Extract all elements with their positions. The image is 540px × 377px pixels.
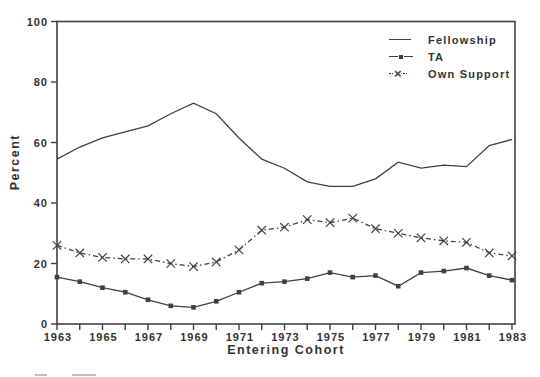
x-tick-label: 1973: [271, 331, 299, 343]
y-tick-label: 60: [34, 137, 48, 149]
x-tick-label: 1969: [180, 331, 208, 343]
ta-square-marker: [237, 290, 242, 295]
ta-line-sample-icon: [389, 55, 419, 59]
y-axis-label: Percent: [8, 134, 22, 190]
x-tick-label: 1979: [408, 331, 436, 343]
ta-square-marker: [510, 278, 515, 283]
x-tick-label: 1963: [44, 331, 72, 343]
x-axis-label: Entering Cohort: [57, 343, 515, 357]
ta-square-marker: [55, 275, 60, 280]
series-line-fellowship: [57, 103, 512, 186]
ta-square-marker: [464, 266, 469, 271]
own-support-line-sample-icon: ×: [389, 69, 419, 79]
ta-square-marker: [373, 273, 378, 278]
legend: Fellowship TA × Own Support: [389, 33, 510, 80]
ta-square-marker: [77, 279, 82, 284]
legend-label-ta: TA: [428, 51, 444, 63]
ta-square-marker: [396, 284, 401, 289]
legend-label-fellowship: Fellowship: [428, 34, 497, 46]
ta-square-marker: [191, 305, 196, 310]
legend-item-ta: TA: [389, 50, 510, 63]
ta-square-marker: [419, 270, 424, 275]
x-tick-label: 1965: [89, 331, 117, 343]
ta-square-marker: [328, 270, 333, 275]
cropped-caption-fragment: [35, 374, 47, 377]
fellowship-line-sample-icon: [389, 39, 419, 40]
ta-square-marker: [123, 290, 128, 295]
ta-square-marker: [441, 269, 446, 274]
x-tick-label: 1977: [362, 331, 390, 343]
y-tick-label: 100: [27, 16, 48, 28]
ta-square-marker: [259, 281, 264, 286]
x-tick-label: 1971: [226, 331, 254, 343]
x-marker-icon: ×: [394, 69, 402, 79]
ta-square-marker: [214, 299, 219, 304]
ta-square-marker: [487, 273, 492, 278]
x-tick-label: 1981: [453, 331, 481, 343]
legend-item-own-support: × Own Support: [389, 67, 510, 80]
y-tick-label: 20: [34, 258, 48, 270]
x-tick-label: 1983: [499, 331, 527, 343]
ta-square-marker: [100, 285, 105, 290]
ta-square-marker: [146, 298, 151, 303]
ta-square-marker: [305, 276, 310, 281]
figure-line-chart: 0204060801001963196519671969197119731975…: [0, 0, 540, 377]
y-tick-label: 0: [41, 318, 48, 330]
series-line-ta: [57, 268, 512, 307]
y-tick-label: 80: [34, 76, 48, 88]
ta-square-marker: [350, 275, 355, 280]
ta-square-marker: [282, 279, 287, 284]
y-tick-label: 40: [34, 197, 48, 209]
legend-item-fellowship: Fellowship: [389, 33, 510, 46]
cropped-caption-fragment: [72, 374, 96, 377]
legend-label-own-support: Own Support: [428, 68, 510, 80]
x-tick-label: 1967: [135, 331, 163, 343]
x-tick-label: 1975: [317, 331, 345, 343]
ta-square-marker: [168, 304, 173, 309]
